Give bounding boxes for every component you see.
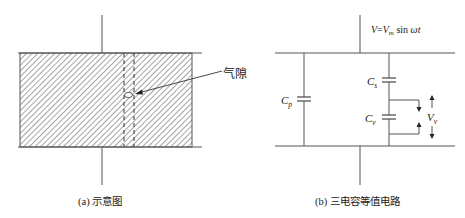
void-label: 气隙: [223, 66, 247, 81]
cv-label: Cv: [365, 112, 376, 127]
schematic-diagram: 气隙 (a) 示意图: [18, 15, 247, 208]
voltage-bracket: [389, 100, 422, 134]
vv-label: Vv: [427, 111, 438, 126]
figure-canvas: 气隙 (a) 示意图 V=Vm sin ωt Cp: [0, 0, 465, 218]
arrow-down-icon: [417, 107, 422, 112]
cs-label: Cs: [367, 75, 377, 90]
caption-b: (b) 三电容等值电路: [315, 195, 401, 208]
capacitor-cv: Cv: [365, 112, 396, 127]
cp-label: Cp: [281, 94, 292, 109]
caption-a: (a) 示意图: [78, 195, 122, 208]
void-icon: [125, 92, 133, 97]
arrow-up-icon: [430, 95, 435, 100]
equivalent-circuit: V=Vm sin ωt Cp Cs: [275, 15, 455, 208]
arrow-down-icon: [430, 134, 435, 139]
dielectric-block: [20, 53, 192, 147]
arrow-up-icon: [417, 122, 422, 127]
capacitor-cs: Cs: [367, 75, 396, 90]
capacitor-cp: Cp: [281, 53, 311, 146]
source-voltage-label: V=Vm sin ωt: [371, 24, 421, 37]
vv-indicator: Vv: [427, 95, 438, 139]
